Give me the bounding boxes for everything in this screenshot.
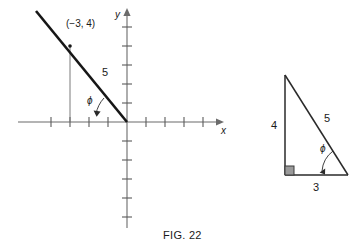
figure-drawing: (−3, 4) 5 ϕ x y 4 5 3 ϕ FIG. 22 — [0, 0, 363, 248]
triangle-vertical-label: 4 — [271, 119, 277, 131]
figure-caption: FIG. 22 — [163, 229, 202, 241]
angle-label-graph: ϕ — [87, 95, 93, 106]
triangle-hypotenuse-label: 5 — [324, 112, 330, 124]
right-angle-marker-icon — [285, 166, 294, 175]
angle-arc-triangle — [322, 151, 333, 171]
x-axis-label: x — [220, 125, 227, 136]
terminal-point-label: (−3, 4) — [66, 18, 95, 29]
terminal-point-marker — [68, 44, 72, 48]
triangle-hypotenuse — [285, 75, 348, 175]
coordinate-graph: (−3, 4) 5 ϕ x y — [18, 8, 227, 228]
y-axis-label: y — [114, 9, 121, 20]
angle-arrow-head-graph — [94, 110, 101, 116]
angle-label-triangle: ϕ — [320, 143, 326, 154]
segment-length-label: 5 — [102, 66, 108, 78]
y-axis-arrowhead — [123, 8, 130, 16]
reference-triangle: 4 5 3 ϕ — [271, 75, 348, 193]
figure-container: (−3, 4) 5 ϕ x y 4 5 3 ϕ FIG. 22 — [0, 0, 363, 248]
triangle-horizontal-label: 3 — [313, 181, 319, 193]
